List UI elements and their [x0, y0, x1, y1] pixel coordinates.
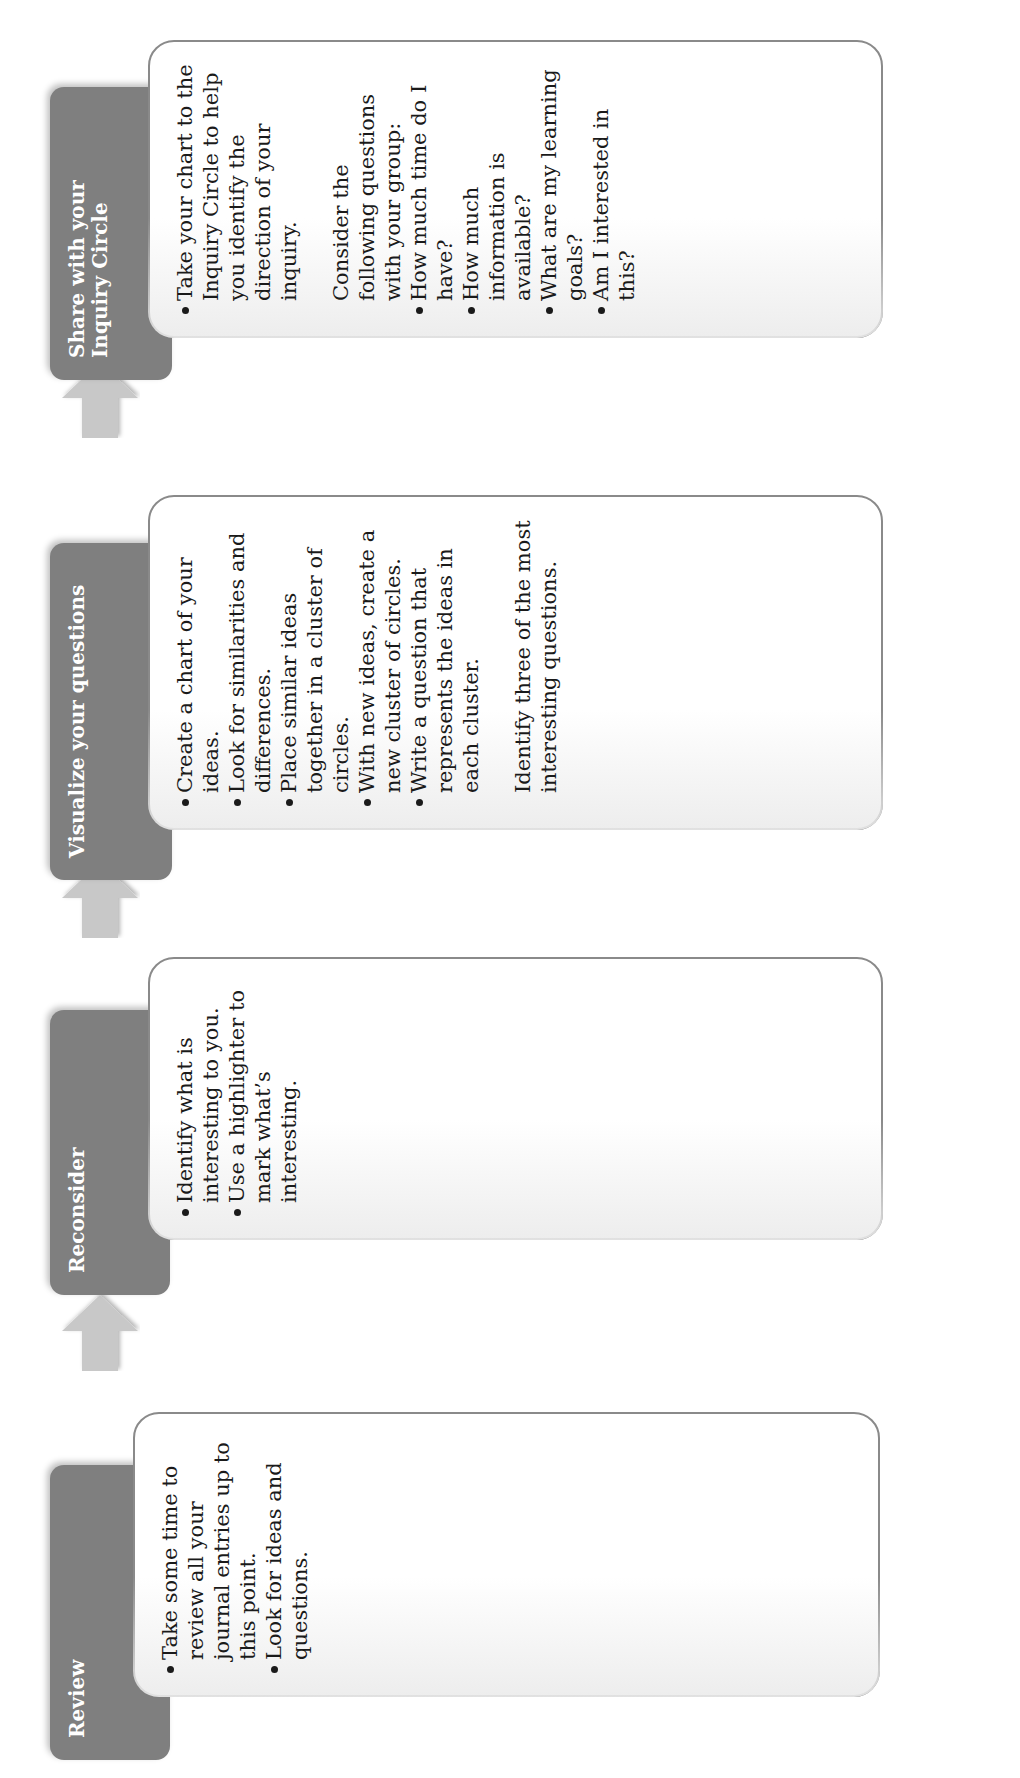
bullet-item: What are my learning goals? — [536, 62, 588, 314]
bullet-list: Identify what is interesting to you. Use… — [172, 979, 302, 1216]
bullet-item: Look for ideas and questions. — [261, 1434, 313, 1673]
bullet-item: With new ideas, create a new cluster of … — [354, 517, 406, 806]
bullet-list: Create a chart of your ideas. Look for s… — [172, 517, 484, 806]
step-box-review: Take some time to review all your journa… — [133, 1412, 880, 1697]
bullet-list: Take some time to review all your journa… — [157, 1434, 313, 1673]
bullet-list: Take your chart to the Inquiry Circle to… — [172, 62, 302, 314]
step-title: Share with your Inquiry Circle — [65, 180, 112, 358]
bullet-item: Am I interested in this? — [588, 62, 640, 314]
process-diagram: Review Take some time to review all your… — [0, 0, 1020, 1778]
bullet-item: Look for similarities and differences. — [224, 517, 276, 806]
step-title: Reconsider — [65, 1147, 89, 1273]
bullet-item: How much information is available? — [458, 62, 536, 314]
bullet-item: Write a question that represents the ide… — [406, 517, 484, 806]
bullet-item: Identify what is interesting to you. — [172, 979, 224, 1216]
step-title: Review — [65, 1659, 89, 1738]
arrow-right-icon — [60, 1293, 140, 1371]
bullet-item: How much time do I have? — [406, 62, 458, 314]
bullet-item: Take your chart to the Inquiry Circle to… — [172, 62, 302, 314]
step-box-visualize: Create a chart of your ideas. Look for s… — [148, 495, 883, 830]
step-box-share: Take your chart to the Inquiry Circle to… — [148, 40, 883, 338]
step-box-reconsider: Identify what is interesting to you. Use… — [148, 957, 883, 1240]
bullet-item: Place similar ideas together in a cluste… — [276, 517, 354, 806]
step-title: Visualize your questions — [65, 585, 89, 858]
bullet-item: Create a chart of your ideas. — [172, 517, 224, 806]
bullet-item: Take some time to review all your journa… — [157, 1434, 261, 1673]
sub-bullet-list: How much time do I have? How much inform… — [406, 62, 640, 314]
bullet-item: Use a highlighter to mark what’s interes… — [224, 979, 302, 1216]
step-note: Identify three of the most interesting q… — [510, 517, 562, 806]
step-note: Consider the following questions with yo… — [328, 62, 406, 314]
